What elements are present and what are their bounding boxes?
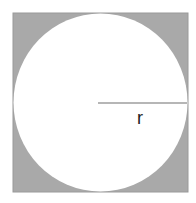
inscribed-circle-diagram: r (0, 0, 196, 203)
radius-label: r (137, 108, 143, 128)
